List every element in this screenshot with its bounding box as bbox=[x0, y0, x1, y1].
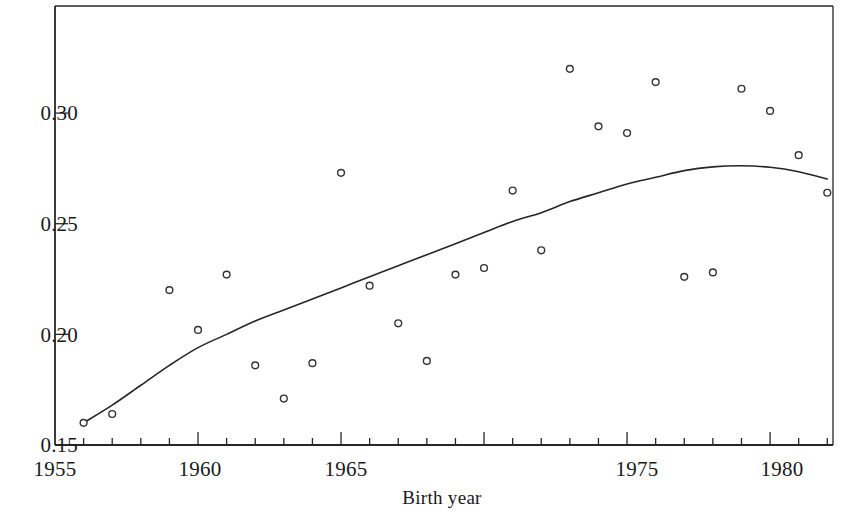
scatter-plot-figure: 0.30 0.25 0.20 0.15 1955 1960 1965 1975 … bbox=[0, 0, 843, 521]
data-point-marker bbox=[624, 130, 631, 137]
data-point-marker bbox=[452, 271, 459, 278]
data-point-marker bbox=[109, 411, 116, 418]
data-point-marker bbox=[166, 287, 173, 294]
data-point-marker bbox=[595, 123, 602, 130]
data-point-marker bbox=[280, 395, 287, 402]
data-point-marker bbox=[738, 85, 745, 92]
y-tick-label-015: 0.15 bbox=[0, 433, 78, 458]
data-point-marker bbox=[709, 269, 716, 276]
y-tick-label-025: 0.25 bbox=[0, 212, 78, 237]
x-tick-label-1960: 1960 bbox=[160, 457, 240, 482]
data-point-marker bbox=[767, 107, 774, 114]
data-point-marker bbox=[366, 282, 373, 289]
data-point-marker bbox=[652, 79, 659, 86]
data-point-marker bbox=[509, 187, 516, 194]
data-point-marker bbox=[223, 271, 230, 278]
data-point-marker bbox=[195, 327, 202, 334]
data-point-marker bbox=[309, 360, 316, 367]
data-point-marker bbox=[338, 169, 345, 176]
x-axis-ticks bbox=[84, 432, 828, 445]
fitted-curve bbox=[84, 166, 828, 423]
data-point-marker bbox=[538, 247, 545, 254]
data-point-marker bbox=[423, 358, 430, 365]
data-points bbox=[80, 65, 830, 426]
data-point-marker bbox=[795, 152, 802, 159]
x-tick-label-1965: 1965 bbox=[306, 457, 386, 482]
x-axis-title: Birth year bbox=[322, 487, 562, 509]
data-point-marker bbox=[395, 320, 402, 327]
axis-frame bbox=[55, 6, 833, 445]
x-tick-label-1955: 1955 bbox=[15, 457, 95, 482]
data-point-marker bbox=[681, 273, 688, 280]
data-point-marker bbox=[824, 189, 831, 196]
data-point-marker bbox=[481, 265, 488, 272]
data-point-marker bbox=[252, 362, 259, 369]
y-tick-label-030: 0.30 bbox=[0, 101, 78, 126]
x-tick-label-1975: 1975 bbox=[597, 457, 677, 482]
data-point-marker bbox=[80, 419, 87, 426]
data-point-marker bbox=[566, 65, 573, 72]
fitted-trend-line bbox=[84, 166, 828, 423]
plot-canvas bbox=[0, 0, 843, 521]
x-tick-label-1980: 1980 bbox=[742, 457, 822, 482]
y-tick-label-020: 0.20 bbox=[0, 323, 78, 348]
